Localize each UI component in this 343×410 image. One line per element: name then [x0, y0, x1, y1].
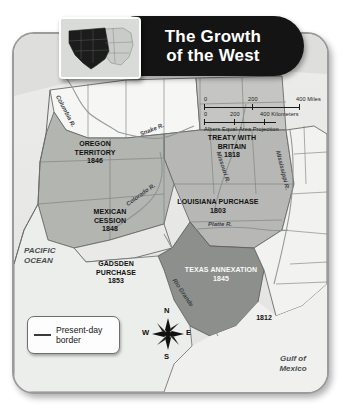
label-treaty-with-britain: TREATY WITH BRITAIN 1818 — [190, 134, 274, 160]
compass-west: W — [142, 328, 149, 337]
scale-kilometers: 0 200 400 Kilometers — [204, 111, 330, 125]
compass-south: S — [164, 352, 169, 361]
map-title: The Growth of the West — [151, 27, 261, 65]
compass-north: N — [164, 306, 169, 315]
scale-km-bar — [204, 119, 330, 125]
scale-miles-zero: 0 — [204, 96, 207, 102]
scale-km-max: 400 Kilometers — [260, 111, 299, 117]
map-figure: OREGON TERRITORY 1846 TREATY WITH BRITAI… — [0, 0, 343, 410]
label-pacific-ocean: PACIFIC OCEAN — [24, 246, 86, 266]
compass-east: E — [186, 328, 191, 337]
scale-km-mid: 200 — [230, 111, 240, 117]
label-oregon-territory: OREGON TERRITORY 1846 — [56, 140, 134, 166]
label-year-1812: 1812 — [250, 314, 278, 323]
map-scale-bar: 0 200 400 Miles 0 200 400 Kilometers — [204, 96, 330, 132]
label-louisiana-purchase: LOUISIANA PURCHASE 1803 — [162, 198, 274, 215]
inset-locator-map — [59, 17, 141, 79]
scale-miles-max: 400 Miles — [296, 96, 321, 102]
map-title-line-2: of the West — [165, 46, 261, 65]
compass-rose: N S W E — [142, 306, 194, 364]
map-title-line-1: The Growth — [165, 27, 261, 46]
label-mexican-cession: MEXICAN CESSION 1848 — [74, 208, 146, 234]
legend-label: Present-day border — [56, 325, 113, 345]
map-projection-label: Albers Equal-Area Projection — [204, 126, 330, 132]
legend-border-line-swatch — [34, 334, 51, 336]
label-texas-annexation: TEXAS ANNEXATION 1845 — [166, 266, 276, 283]
compass-star-icon — [152, 318, 184, 350]
scale-km-zero: 0 — [204, 111, 207, 117]
inset-usa-outline — [61, 19, 139, 77]
label-gadsden-purchase: GADSDEN PURCHASE 1853 — [76, 260, 156, 286]
label-platte-river: Platte R. — [198, 220, 242, 229]
label-gulf-of-mexico: Gulf of Mexico — [260, 354, 326, 374]
map-legend: Present-day border — [27, 316, 120, 354]
scale-miles: 0 200 400 Miles — [204, 96, 330, 111]
scale-miles-bar — [204, 104, 330, 110]
scale-miles-mid: 200 — [248, 96, 258, 102]
